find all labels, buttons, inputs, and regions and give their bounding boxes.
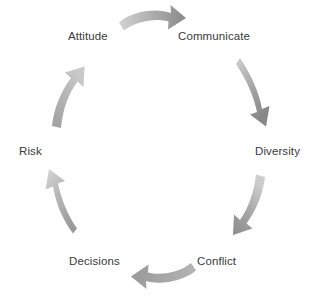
cycle-node-risk: Risk — [19, 146, 42, 158]
cycle-node-attitude: Attitude — [68, 31, 108, 43]
arrow-decisions-to-risk — [46, 169, 78, 234]
cycle-node-conflict: Conflict — [197, 256, 236, 268]
cycle-node-communicate: Communicate — [178, 31, 250, 43]
arrow-diversity-to-conflict — [233, 175, 265, 236]
arrow-communicate-to-diversity — [236, 58, 270, 127]
cycle-node-decisions: Decisions — [69, 256, 120, 268]
arrow-risk-to-attitude — [52, 67, 85, 129]
arrow-conflict-to-decisions — [131, 263, 196, 289]
cycle-node-diversity: Diversity — [255, 146, 300, 158]
cycle-diagram: Attitude Communicate Diversity Conflict … — [0, 0, 317, 305]
arrow-attitude-to-communicate — [119, 5, 186, 31]
